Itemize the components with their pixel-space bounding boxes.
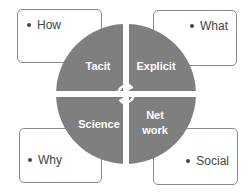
cycle-arrows-icon <box>119 85 134 104</box>
quadrant-explicit-label: Explicit <box>136 60 175 72</box>
quadrant-science <box>56 97 123 164</box>
quadrant-explicit <box>129 24 196 91</box>
quadrant-network-label-1: Net <box>146 109 164 121</box>
quadrant-network-label-2: work <box>141 124 169 136</box>
quadrant-tacit <box>56 24 123 91</box>
quadrant-science-label: Science <box>78 118 120 130</box>
quadrant-tacit-label: Tacit <box>86 60 111 72</box>
quadrant-circle: Tacit Explicit Science Net work <box>0 0 252 195</box>
